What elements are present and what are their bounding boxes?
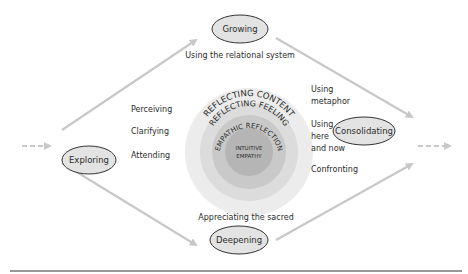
therapy-process-diagram: REFLECTING CONTENT REFLECTING FEELING EM… bbox=[0, 0, 468, 274]
label-using-metaphor-2: metaphor bbox=[311, 97, 351, 106]
node-label-deepening: Deepening bbox=[216, 235, 262, 245]
label-here-now-3: and now bbox=[311, 144, 346, 153]
label-appreciating-sacred: Appreciating the sacred bbox=[198, 213, 294, 222]
label-relational-system: Using the relational system bbox=[185, 51, 295, 60]
label-attending: Attending bbox=[131, 151, 170, 160]
node-growing: Growing bbox=[212, 15, 268, 43]
node-deepening: Deepening bbox=[210, 226, 268, 254]
label-here-now-1: Using bbox=[311, 120, 333, 129]
label-clarifying: Clarifying bbox=[131, 127, 169, 136]
label-confronting: Confronting bbox=[311, 165, 358, 174]
node-consolidating: Consolidating bbox=[333, 117, 395, 145]
node-exploring: Exploring bbox=[62, 146, 116, 174]
label-here-now-2: here bbox=[311, 132, 329, 141]
node-label-exploring: Exploring bbox=[69, 155, 109, 165]
node-label-growing: Growing bbox=[222, 24, 257, 34]
ring-label-intuitive-2: EMPATHY bbox=[236, 153, 262, 159]
label-perceiving: Perceiving bbox=[131, 105, 172, 114]
arrow-exploring-to-deepening bbox=[62, 163, 196, 245]
node-label-consolidating: Consolidating bbox=[335, 126, 393, 136]
arrow-exploring-to-growing bbox=[62, 40, 196, 130]
reflection-rings: REFLECTING CONTENT REFLECTING FEELING EM… bbox=[185, 88, 313, 216]
label-using-metaphor-1: Using bbox=[311, 85, 333, 94]
ring-label-intuitive-1: INTUITIVE bbox=[236, 145, 263, 151]
